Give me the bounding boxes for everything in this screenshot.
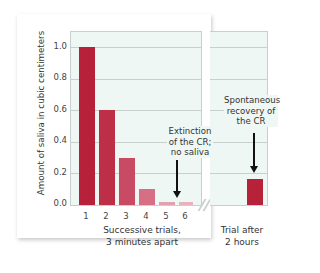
y-tick: 0.2 (37, 167, 67, 177)
gridline (210, 173, 267, 174)
x-axis-label-line: Successive trials, (92, 224, 192, 236)
x-tick: 2 (101, 211, 111, 221)
y-tick: 0.0 (37, 198, 67, 208)
bar-trial-1 (79, 47, 95, 205)
annotation-line: recovery of (224, 106, 278, 117)
gridline (210, 79, 267, 80)
arrow-head-icon (173, 191, 181, 198)
arrow-head-icon (250, 166, 258, 173)
annotation-line: the CR (224, 116, 278, 127)
bar-trial-3 (119, 158, 135, 205)
x-axis-secondary-label-line: 2 hours (214, 236, 270, 248)
x-axis-label: Successive trials, 3 minutes apart (92, 224, 192, 248)
x-tick: 5 (161, 211, 171, 221)
y-tick: 0.4 (37, 135, 67, 145)
gridline (210, 142, 267, 143)
x-axis-label-line: 3 minutes apart (92, 236, 192, 248)
bar-trial-5 (159, 202, 175, 205)
bar-trial-2 (99, 110, 115, 205)
x-axis-secondary-label-line: Trial after (214, 224, 270, 236)
annotation-line: Spontaneous (224, 95, 278, 106)
bar-trial-after-2-hours (247, 179, 263, 205)
gridline (210, 47, 267, 48)
x-tick: 4 (141, 211, 151, 221)
annotation-line: Extinction (167, 126, 213, 137)
x-tick: 6 (180, 211, 190, 221)
y-tick: 0.6 (37, 104, 67, 114)
annotation-line: of the CR; (167, 137, 213, 148)
annotation-spontaneous-recovery: Spontaneous recovery of the CR (224, 95, 278, 127)
arrow-down-icon (176, 160, 178, 192)
annotation-line: no saliva (167, 147, 213, 158)
y-tick: 0.8 (37, 72, 67, 82)
annotation-extinction: Extinction of the CR; no saliva (167, 126, 213, 158)
bar-trial-6 (179, 202, 193, 205)
arrow-down-icon (253, 133, 255, 168)
x-tick: 3 (121, 211, 131, 221)
y-tick: 1.0 (37, 41, 67, 51)
x-axis-secondary-label: Trial after 2 hours (214, 224, 270, 248)
x-tick: 1 (81, 211, 91, 221)
plot-area (70, 31, 202, 206)
bar-trial-4 (139, 189, 155, 205)
